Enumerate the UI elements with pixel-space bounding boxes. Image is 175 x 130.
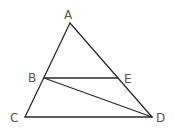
label-c: C [10,111,18,125]
label-e: E [124,72,132,86]
segments [25,23,152,117]
label-b: B [28,71,36,85]
label-a: A [64,8,73,22]
segment-ad [70,23,152,117]
labels: A B E C D [10,8,165,125]
geometry-diagram: A B E C D [0,0,175,130]
segment-ac [25,23,70,117]
label-d: D [156,111,165,125]
